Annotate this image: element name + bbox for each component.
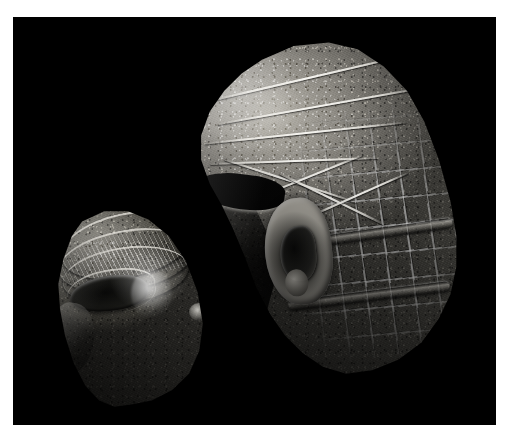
photograph-plate	[13, 17, 496, 425]
artifact-large-shading	[175, 39, 465, 384]
artifact-small-silhouette	[43, 207, 213, 415]
photograph-frame: two carved stone sculpture fragments	[0, 0, 515, 442]
artifact-small-face-fragment	[43, 207, 213, 415]
artifact-large-silhouette	[175, 39, 465, 384]
artifact-large-head-fragment	[175, 39, 465, 384]
artifact-small-shading	[43, 207, 213, 415]
